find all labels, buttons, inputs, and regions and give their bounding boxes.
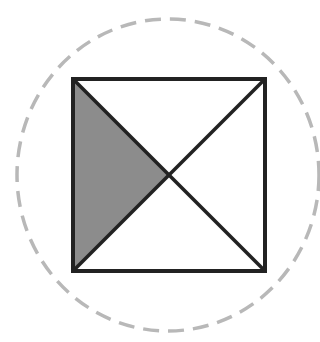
- figure-canvas: [0, 0, 320, 342]
- geometry-figure: [0, 0, 320, 342]
- shaded-left-triangle: [73, 79, 169, 271]
